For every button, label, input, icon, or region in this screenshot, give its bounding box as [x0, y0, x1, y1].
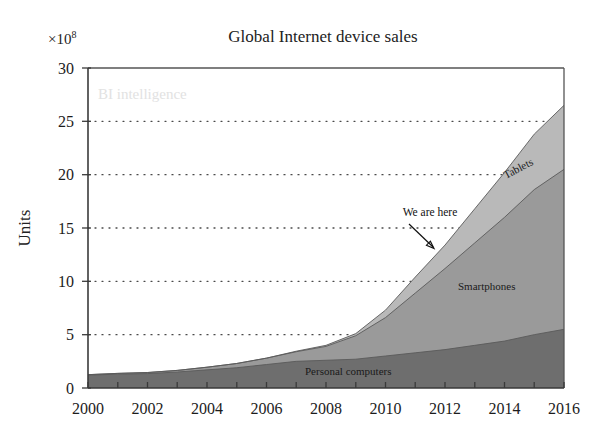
series-label-smartphones: Smartphones — [458, 280, 515, 292]
x-tick-label-2014: 2014 — [489, 400, 521, 417]
x-tick-labels: 2000 2002 2004 2006 2008 2010 2012 2014 … — [72, 400, 580, 417]
x-tick-label-2004: 2004 — [191, 400, 223, 417]
y-axis-multiplier-base: ×10 — [48, 31, 71, 47]
y-tick-label-10: 10 — [58, 273, 74, 290]
x-tick-label-2006: 2006 — [251, 400, 283, 417]
x-tick-label-2016: 2016 — [548, 400, 580, 417]
global-internet-device-sales-chart: BI intelligence Global Internet device s… — [0, 0, 591, 441]
y-tick-labels: 0 5 10 15 20 25 30 — [58, 60, 74, 397]
y-tick-label-15: 15 — [58, 220, 74, 237]
x-tick-label-2012: 2012 — [429, 400, 461, 417]
y-axis-multiplier-exponent: 8 — [71, 29, 76, 40]
annotation-we-are-here-label: We are here — [403, 206, 458, 218]
chart-page: BI intelligence Global Internet device s… — [0, 0, 591, 441]
y-tick-label-5: 5 — [66, 326, 74, 343]
x-tick-label-2008: 2008 — [310, 400, 342, 417]
series-label-personal-computers: Personal computers — [305, 365, 391, 377]
y-tick-label-0: 0 — [66, 380, 74, 397]
chart-title: Global Internet device sales — [228, 27, 417, 46]
y-axis-label: Units — [15, 210, 34, 247]
x-tick-label-2002: 2002 — [132, 400, 164, 417]
y-axis-multiplier: ×108 — [48, 29, 76, 47]
y-tick-label-20: 20 — [58, 166, 74, 183]
x-tick-label-2000: 2000 — [72, 400, 104, 417]
y-tick-label-25: 25 — [58, 113, 74, 130]
x-tick-label-2010: 2010 — [370, 400, 402, 417]
watermark-bi-intelligence: BI intelligence — [98, 86, 187, 102]
y-tick-label-30: 30 — [58, 60, 74, 77]
